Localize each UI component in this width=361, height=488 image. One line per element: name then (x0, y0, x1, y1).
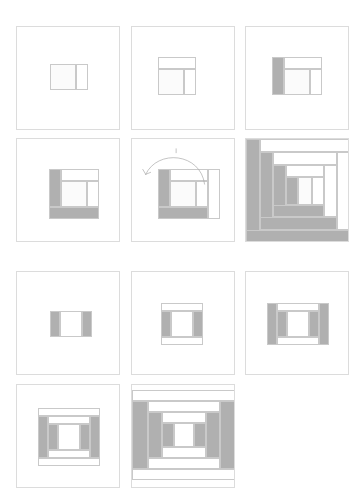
fabric-strip-ring-5-top (260, 139, 349, 152)
fabric-strip-center-square (170, 181, 196, 207)
fabric-strip-ring-2-left (286, 177, 298, 205)
fabric-strip-strip-left-3 (158, 169, 170, 207)
quilt-block (246, 139, 349, 242)
fabric-strip-strip-left-3 (267, 303, 277, 345)
fabric-strip-strip-bottom-4 (158, 207, 208, 219)
fabric-strip-strip-top-2 (161, 303, 203, 311)
fabric-strip-strip-top-2 (170, 169, 208, 181)
fabric-strip-strip-bottom-4 (38, 458, 100, 466)
fabric-strip-center-square (61, 181, 87, 207)
fabric-strip-ring-3-bottom (162, 447, 206, 458)
step-panel-3 (245, 26, 349, 130)
fabric-strip-ring-3-right (194, 423, 206, 447)
fabric-strip-ring-5-right (220, 401, 235, 469)
step-panel-8 (131, 271, 235, 375)
quilt-block (161, 303, 203, 345)
fabric-strip-strip-right-1 (76, 64, 88, 90)
fabric-strip-center-square (284, 69, 310, 95)
quilt-block (158, 57, 196, 95)
fabric-strip-ring-4-top (148, 401, 220, 412)
fabric-strip-strip-bottom-2 (161, 337, 203, 345)
fabric-strip-strip-bottom-2 (277, 337, 319, 345)
fabric-strip-ring-3-top (286, 165, 324, 177)
fabric-strip-ring-5-bottom (132, 469, 235, 480)
step-panel-4 (16, 138, 120, 242)
fabric-strip-strip-right-1 (193, 311, 203, 337)
fabric-strip-strip-left-3 (272, 57, 284, 95)
fabric-strip-strip-right-1 (82, 311, 92, 337)
fabric-strip-strip-right-1 (80, 424, 90, 450)
arrow-head (143, 169, 151, 174)
fabric-strip-ring-4-right (206, 412, 220, 458)
fabric-strip-strip-bottom-4 (49, 207, 99, 219)
fabric-strip-strip-top-2 (48, 416, 90, 424)
step-panel-11 (131, 384, 235, 488)
quilt-block (50, 311, 92, 337)
fabric-strip-ring-3-left (162, 423, 174, 447)
fabric-strip-ring-3-top (162, 412, 206, 423)
quilt-block (50, 64, 88, 90)
fabric-strip-strip-top-2 (284, 57, 322, 69)
fabric-strip-strip-left-3 (49, 169, 61, 207)
step-panel-6 (245, 138, 349, 242)
quilt-block (38, 408, 100, 466)
fabric-strip-strip-bottom-2 (48, 450, 90, 458)
fabric-strip-strip-top-2 (277, 303, 319, 311)
fabric-strip-ring-3-bottom (273, 205, 324, 217)
fabric-strip-ring-4-bottom (148, 458, 220, 469)
fabric-strip-strip-right-1 (310, 69, 322, 95)
fabric-strip-center-square (58, 424, 80, 450)
fabric-strip-strip-right-1 (184, 69, 196, 95)
fabric-strip-strip-left-1 (48, 424, 58, 450)
quilt-block (158, 169, 220, 219)
fabric-strip-ring-5-left (246, 139, 260, 242)
fabric-strip-center-square (50, 64, 76, 90)
quilt-block (49, 169, 99, 219)
step-panel-2 (131, 26, 235, 130)
fabric-strip-strip-right-1 (309, 311, 319, 337)
fabric-strip-ring-4-right (324, 165, 337, 217)
fabric-strip-strip-right-3 (90, 416, 100, 458)
step-panel-1 (16, 26, 120, 130)
fabric-strip-strip-top-2 (61, 169, 99, 181)
fabric-strip-ring-5-top (132, 390, 235, 401)
fabric-strip-strip-right-3 (319, 303, 329, 345)
step-panel-10 (16, 384, 120, 488)
fabric-strip-strip-left-1 (50, 311, 60, 337)
fabric-strip-strip-right-1 (87, 181, 99, 207)
fabric-strip-strip-left-3 (38, 416, 48, 458)
quilt-block (272, 57, 322, 95)
fabric-strip-ring-5-left (132, 401, 148, 469)
fabric-strip-center-square (287, 311, 309, 337)
fabric-strip-strip-left-1 (277, 311, 287, 337)
fabric-strip-ring-4-left (148, 412, 162, 458)
fabric-strip-strip-left-1 (161, 311, 171, 337)
fabric-strip-center-square (298, 177, 312, 205)
fabric-strip-strip-right-1 (196, 181, 208, 207)
fabric-strip-center-square (60, 311, 82, 337)
quilt-block (132, 390, 235, 480)
fabric-strip-strip-top-4 (38, 408, 100, 416)
fabric-strip-ring-3-right (312, 177, 324, 205)
step-panel-5 (131, 138, 235, 242)
fabric-strip-ring-5-right (337, 152, 349, 230)
quilt-block (267, 303, 329, 345)
fabric-strip-strip-right-5 (208, 169, 220, 219)
fabric-strip-strip-top-2 (158, 57, 196, 69)
step-panel-9 (245, 271, 349, 375)
fabric-strip-center-square (171, 311, 193, 337)
fabric-strip-ring-4-bottom (260, 217, 337, 230)
fabric-strip-ring-5-bottom (246, 230, 349, 242)
step-panel-7 (16, 271, 120, 375)
fabric-strip-ring-4-top (273, 152, 337, 165)
fabric-strip-center-square (174, 423, 194, 447)
fabric-strip-center-square (158, 69, 184, 95)
